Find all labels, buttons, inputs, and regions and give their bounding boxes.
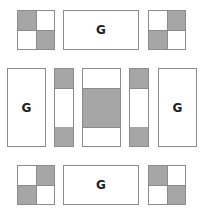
divider <box>36 166 37 204</box>
shaded-cell <box>83 88 120 127</box>
divider <box>130 88 148 89</box>
right-tall-rect: G <box>158 68 197 147</box>
shaded-cell <box>36 30 54 49</box>
shaded-cell <box>55 69 73 88</box>
right-strip <box>129 68 149 147</box>
rect-label: G <box>8 101 45 115</box>
rect-label: G <box>64 178 138 192</box>
top-right-checker-square <box>148 10 186 50</box>
shaded-cell <box>36 166 54 185</box>
left-tall-rect: G <box>7 68 46 147</box>
shaded-cell <box>18 11 36 30</box>
shaded-cell <box>167 185 185 204</box>
top-center-rect: G <box>63 10 139 50</box>
divider <box>167 166 168 204</box>
left-strip <box>54 68 74 147</box>
shaded-cell <box>55 127 73 146</box>
divider <box>36 11 37 49</box>
shaded-cell <box>130 127 148 146</box>
bottom-left-checker-square <box>17 165 55 205</box>
shaded-cell <box>167 11 185 30</box>
divider <box>83 127 120 128</box>
rect-label: G <box>159 101 196 115</box>
divider <box>167 11 168 49</box>
shaded-cell <box>18 185 36 204</box>
bottom-right-checker-square <box>148 165 186 205</box>
rect-label: G <box>64 23 138 37</box>
divider <box>83 88 120 89</box>
top-left-checker-square <box>17 10 55 50</box>
divider <box>55 88 73 89</box>
shaded-cell <box>130 69 148 88</box>
bottom-center-rect: G <box>63 165 139 205</box>
center-block <box>82 68 121 147</box>
shaded-cell <box>149 166 167 185</box>
shaded-cell <box>149 30 167 49</box>
